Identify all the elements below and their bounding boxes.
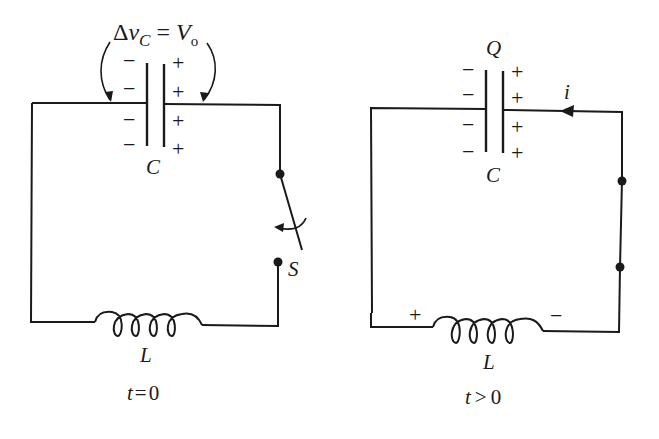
svg-text:−: − [462, 112, 474, 137]
switch-s [274, 170, 307, 267]
current-label: i [564, 80, 570, 104]
voltage-arrow-right [204, 43, 215, 100]
svg-text:−: − [462, 139, 474, 164]
svg-text:−: − [462, 57, 474, 82]
svg-text:−: − [123, 48, 135, 73]
voltage-annotation: ΔvC=Vo [113, 19, 198, 50]
svg-text:+: + [511, 114, 523, 139]
right-capacitor-negative-signs: − − − − [462, 57, 474, 164]
right-capacitor-positive-signs: + + + + [511, 59, 523, 165]
svg-text:+: + [172, 108, 184, 133]
switch-label: S [288, 257, 299, 281]
inductor-plus-sign: + [409, 302, 421, 327]
inductor-minus-sign: − [550, 303, 562, 328]
svg-text:+: + [172, 79, 184, 104]
svg-text:+: + [511, 59, 523, 84]
current-arrow-icon [560, 105, 574, 117]
svg-text:+: + [172, 136, 184, 161]
left-capacitor-label: C [146, 155, 161, 179]
left-capacitor-positive-signs: + + + + [172, 50, 184, 161]
right-time-label: t>0 [465, 385, 501, 409]
left-time-label: t=0 [127, 381, 159, 405]
closed-switch-bottom-terminal [616, 263, 625, 272]
svg-text:−: − [123, 76, 135, 101]
right-bottom-wire-left [371, 313, 433, 327]
left-circuit: − − − − + + + + C ΔvC=Vo L [31, 19, 306, 405]
switch-blade [280, 174, 302, 250]
svg-text:−: − [123, 107, 135, 132]
charge-label: Q [486, 36, 501, 60]
closed-switch-top-terminal [618, 177, 627, 186]
voltage-arrow-right-head [200, 92, 209, 102]
left-inductor-coil [95, 312, 202, 336]
lc-circuit-diagram: − − − − + + + + C ΔvC=Vo L [0, 0, 659, 439]
voltage-arrow-left-head [105, 91, 113, 102]
left-inductor-label: L [139, 343, 152, 367]
svg-text:+: + [511, 85, 523, 110]
voltage-arrow-left [101, 42, 110, 100]
right-inductor-label: L [482, 350, 495, 374]
right-capacitor [486, 70, 503, 153]
switch-bottom-terminal [274, 258, 283, 267]
right-circuit: − − − − + + + + Q C i + − L t>0 [371, 36, 627, 409]
right-capacitor-label: C [486, 163, 501, 187]
svg-text:−: − [123, 132, 135, 157]
svg-text:+: + [172, 50, 184, 75]
svg-text:+: + [511, 140, 523, 165]
svg-text:−: − [462, 82, 474, 107]
left-capacitor [147, 63, 164, 147]
switch-rotation-arrowhead [274, 223, 284, 232]
right-inductor-coil [433, 317, 543, 343]
left-left-wire [31, 103, 95, 322]
left-bottom-wire-right [202, 262, 278, 326]
